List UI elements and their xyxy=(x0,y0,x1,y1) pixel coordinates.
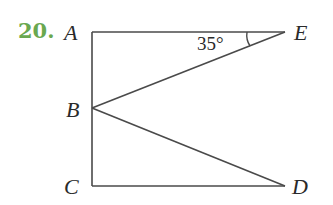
segment-BD xyxy=(92,108,285,186)
segment-BE xyxy=(92,32,285,108)
angle-arc-icon xyxy=(247,32,250,46)
point-label-E: E xyxy=(293,20,308,45)
point-label-A: A xyxy=(62,20,78,45)
point-label-B: B xyxy=(66,97,79,122)
geometry-diagram: 35° A E B C D xyxy=(0,0,333,205)
angle-label: 35° xyxy=(197,33,224,54)
point-label-C: C xyxy=(64,174,79,199)
point-label-D: D xyxy=(291,174,308,199)
